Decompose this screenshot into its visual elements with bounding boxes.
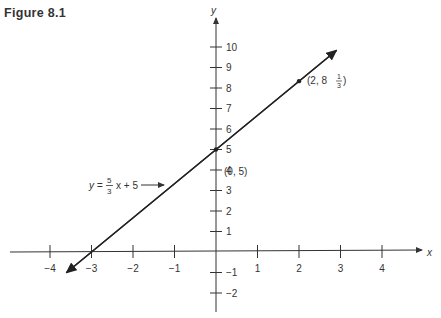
data-point — [297, 79, 301, 83]
svg-text:5: 5 — [107, 176, 112, 185]
axis-ticks: −4−3−2−11234−2−112345678910 — [44, 42, 385, 299]
x-tick-label: 3 — [338, 263, 344, 274]
y-tick-label: 8 — [226, 83, 232, 94]
y-tick-label: 7 — [226, 103, 232, 114]
svg-text:x + 5: x + 5 — [116, 180, 138, 191]
line-y-5-3x-plus-5 — [67, 50, 337, 272]
y-tick-label: 2 — [226, 206, 232, 217]
equation-annotation: y = 5 3 x + 5 — [88, 176, 164, 196]
x-tick-label: −2 — [127, 263, 139, 274]
svg-text:(2, 8: (2, 8 — [307, 75, 327, 86]
svg-text:1: 1 — [337, 73, 341, 80]
y-tick-label: 3 — [226, 185, 232, 196]
y-tick-label: −1 — [226, 267, 238, 278]
line-series — [67, 50, 337, 272]
data-point — [214, 147, 218, 151]
x-tick-label: 4 — [379, 263, 385, 274]
y-tick-label: 6 — [226, 124, 232, 135]
y-tick-label: 5 — [226, 144, 232, 155]
svg-text:): ) — [343, 75, 346, 86]
x-axis-label: x — [426, 247, 433, 258]
svg-text:3: 3 — [337, 82, 341, 89]
y-tick-label: 10 — [226, 42, 238, 53]
y-tick-label: 1 — [226, 226, 232, 237]
x-tick-label: 2 — [296, 263, 302, 274]
y-axis-label: y — [210, 5, 217, 16]
point-label-2-8-1-3: (2, 8 1 3 ) — [307, 73, 346, 89]
y-tick-label: −2 — [226, 288, 238, 299]
chart-canvas: −4−3−2−11234−2−112345678910 x y (0, 5) (… — [0, 0, 441, 318]
x-tick-label: −1 — [169, 263, 181, 274]
x-tick-label: 1 — [255, 263, 261, 274]
svg-text:3: 3 — [107, 187, 112, 196]
x-tick-label: −3 — [86, 263, 98, 274]
point-label-0-5: (0, 5) — [224, 166, 247, 177]
x-tick-label: −4 — [44, 263, 56, 274]
svg-text:y =: y = — [88, 180, 103, 191]
y-tick-label: 9 — [226, 62, 232, 73]
